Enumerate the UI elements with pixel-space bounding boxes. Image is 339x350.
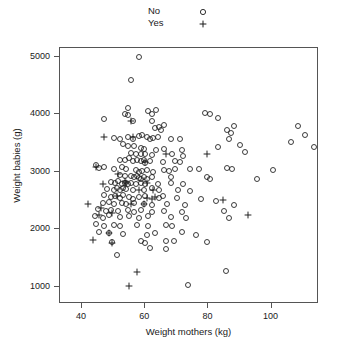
y-tick-label: 5000 — [20, 52, 50, 61]
y-tick-label: 1000 — [20, 282, 50, 291]
scatter-plot-figure: No Yes 10002000300040005000406080100 Wei… — [0, 0, 339, 350]
x-tick-mark — [81, 303, 82, 308]
x-tick-label: 40 — [64, 312, 98, 321]
x-tick-label: 100 — [254, 312, 288, 321]
plot-area — [59, 47, 318, 303]
y-axis-label: Weight babies (g) — [11, 96, 22, 236]
x-tick-mark — [207, 303, 208, 308]
y-tick-label: 3000 — [20, 167, 50, 176]
y-tick-label: 2000 — [20, 224, 50, 233]
y-tick-label: 4000 — [20, 109, 50, 118]
x-tick-mark — [271, 303, 272, 308]
x-tick-mark — [144, 303, 145, 308]
x-axis-label: Weight mothers (kg) — [59, 326, 318, 337]
x-tick-label: 80 — [190, 312, 224, 321]
x-tick-label: 60 — [127, 312, 161, 321]
